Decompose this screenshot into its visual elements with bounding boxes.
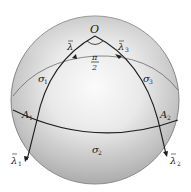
- label-lambda-3: λ: [117, 41, 124, 52]
- label-sigma-2-sub: 2: [98, 149, 102, 156]
- label-lambda-1-sub: 1: [18, 160, 22, 167]
- arrow-lambda-2: [163, 151, 168, 157]
- label-angle-numerator: π: [91, 53, 98, 62]
- label-O: O: [90, 23, 99, 36]
- label-lambda-top-left: λ: [66, 41, 73, 52]
- label-angle-denominator: 2: [91, 63, 97, 72]
- label-sigma-3-sub: 3: [149, 78, 153, 85]
- label-lambda-2: λ: [169, 155, 176, 166]
- label-lambda-2-sub: 2: [177, 160, 181, 167]
- label-A2: A: [159, 109, 167, 120]
- label-lambda-3-sub: 3: [125, 46, 129, 53]
- label-lambda-1: λ: [10, 155, 17, 166]
- label-A1-sub: 1: [29, 114, 33, 121]
- sphere-diagram: O π 2 λ λ 3 σ 1 σ 3 A 1 A 2 σ 2 λ 1 λ 2: [0, 0, 191, 192]
- arrow-lambda-1: [24, 156, 29, 162]
- label-A2-sub: 2: [167, 114, 171, 121]
- label-sigma-1-sub: 1: [44, 78, 48, 85]
- label-A1: A: [21, 109, 29, 120]
